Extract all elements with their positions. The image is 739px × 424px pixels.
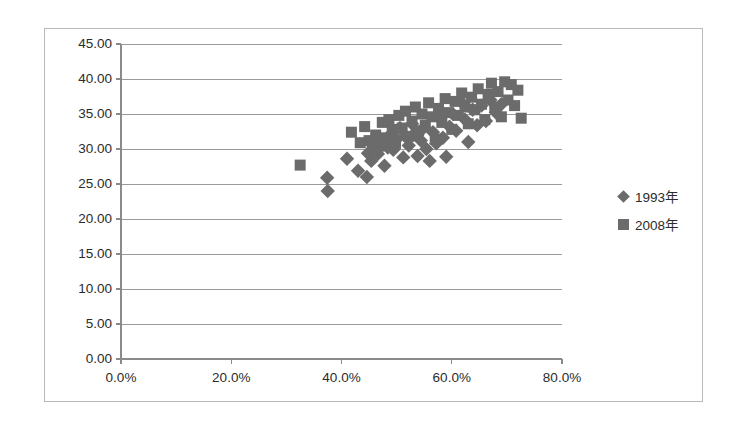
- legend-label-2008: 2008年: [635, 214, 678, 234]
- x-tick-label: 60.0%: [412, 371, 492, 385]
- y-tick-label: 30.00: [50, 142, 112, 156]
- legend-item-1993: 1993年: [617, 182, 703, 210]
- diamond-marker-icon: [617, 190, 630, 203]
- y-tick-label: 0.00: [50, 352, 112, 366]
- chart-legend: 1993年 2008年: [617, 182, 703, 238]
- y-tick-label: 45.00: [50, 37, 112, 51]
- legend-label-1993: 1993年: [635, 186, 678, 206]
- y-tick-label: 5.00: [50, 317, 112, 331]
- x-tick-label: 80.0%: [522, 371, 602, 385]
- x-tick-label: 40.0%: [302, 371, 382, 385]
- y-tick-label: 25.00: [50, 177, 112, 191]
- y-tick-label: 15.00: [50, 247, 112, 261]
- square-marker-icon: [617, 218, 630, 231]
- x-tick-label: 0.0%: [81, 371, 161, 385]
- series-2008-points: [295, 76, 527, 170]
- y-tick-label: 40.00: [50, 72, 112, 86]
- x-tick-label: 20.0%: [191, 371, 271, 385]
- y-tick-label: 35.00: [50, 107, 112, 121]
- y-tick-label: 10.00: [50, 282, 112, 296]
- legend-item-2008: 2008年: [617, 210, 703, 238]
- y-tick-label: 20.00: [50, 212, 112, 226]
